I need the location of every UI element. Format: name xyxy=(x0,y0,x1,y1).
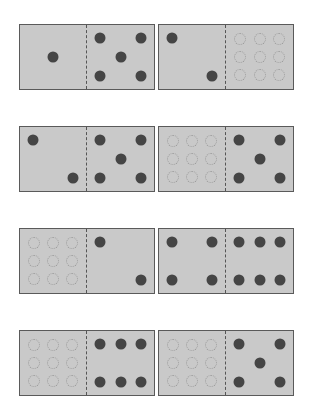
pip-dot xyxy=(135,71,146,82)
empty-pip-outline xyxy=(186,171,198,183)
empty-pip-outline xyxy=(186,153,198,165)
domino-half-left-four xyxy=(159,229,226,293)
empty-pip-outline xyxy=(167,135,179,147)
domino-tile xyxy=(19,126,155,192)
empty-pip-outline xyxy=(273,69,285,81)
pip-dot xyxy=(28,134,39,145)
empty-pip-outline xyxy=(66,273,78,285)
pip-dot xyxy=(234,338,245,349)
domino-half-left-blank xyxy=(20,229,87,293)
empty-pip-outline xyxy=(47,237,59,249)
pip-dot xyxy=(115,52,126,63)
domino-half-left-blank xyxy=(159,127,226,191)
empty-pip-outline xyxy=(167,357,179,369)
domino-tile xyxy=(19,24,155,90)
pip-dot xyxy=(274,134,285,145)
empty-pip-outline xyxy=(186,357,198,369)
empty-pip-outline xyxy=(205,135,217,147)
pip-dot xyxy=(135,338,146,349)
pip-dot xyxy=(234,275,245,286)
domino-half-left-two xyxy=(20,127,87,191)
empty-pip-outline xyxy=(28,273,40,285)
empty-pip-outline xyxy=(273,33,285,45)
empty-pip-outline xyxy=(234,51,246,63)
empty-pip-outline xyxy=(205,171,217,183)
empty-pip-outline xyxy=(28,375,40,387)
empty-pip-outline xyxy=(186,375,198,387)
empty-pip-outline xyxy=(234,69,246,81)
pip-dot xyxy=(135,275,146,286)
domino-tile xyxy=(158,24,294,90)
pip-dot xyxy=(115,377,126,388)
pip-dot xyxy=(254,236,265,247)
domino-tile xyxy=(19,228,155,294)
empty-pip-outline xyxy=(167,153,179,165)
pip-dot xyxy=(135,32,146,43)
pip-dot xyxy=(274,275,285,286)
domino-half-right-six xyxy=(87,331,154,395)
empty-pip-outline xyxy=(66,255,78,267)
pip-dot xyxy=(206,275,217,286)
pip-dot xyxy=(167,236,178,247)
pip-dot xyxy=(135,173,146,184)
empty-pip-outline xyxy=(254,51,266,63)
empty-pip-outline xyxy=(66,237,78,249)
pip-dot xyxy=(274,338,285,349)
domino-tile xyxy=(158,330,294,396)
pip-dot xyxy=(115,338,126,349)
pip-dot xyxy=(115,154,126,165)
pip-dot xyxy=(167,275,178,286)
pip-dot xyxy=(254,358,265,369)
pip-dot xyxy=(234,134,245,145)
pip-dot xyxy=(95,134,106,145)
pip-dot xyxy=(206,71,217,82)
empty-pip-outline xyxy=(47,375,59,387)
domino-half-right-five xyxy=(87,127,154,191)
empty-pip-outline xyxy=(205,357,217,369)
empty-pip-outline xyxy=(28,255,40,267)
domino-tile xyxy=(158,228,294,294)
empty-pip-outline xyxy=(186,339,198,351)
pip-dot xyxy=(234,173,245,184)
pip-dot xyxy=(274,236,285,247)
empty-pip-outline xyxy=(167,171,179,183)
domino-tile xyxy=(158,126,294,192)
empty-pip-outline xyxy=(234,33,246,45)
pip-dot xyxy=(254,154,265,165)
pip-dot xyxy=(234,236,245,247)
pip-dot xyxy=(95,236,106,247)
empty-pip-outline xyxy=(254,69,266,81)
empty-pip-outline xyxy=(47,357,59,369)
pip-dot xyxy=(274,377,285,388)
pip-dot xyxy=(95,173,106,184)
pip-dot xyxy=(254,275,265,286)
pip-dot xyxy=(95,338,106,349)
domino-half-left-blank xyxy=(20,331,87,395)
domino-half-right-six xyxy=(226,229,293,293)
domino-half-right-five xyxy=(226,331,293,395)
empty-pip-outline xyxy=(47,339,59,351)
empty-pip-outline xyxy=(167,339,179,351)
empty-pip-outline xyxy=(28,357,40,369)
domino-half-right-five xyxy=(226,127,293,191)
empty-pip-outline xyxy=(28,237,40,249)
pip-dot xyxy=(167,32,178,43)
pip-dot xyxy=(135,134,146,145)
pip-dot xyxy=(48,52,59,63)
pip-dot xyxy=(274,173,285,184)
domino-tile xyxy=(19,330,155,396)
empty-pip-outline xyxy=(205,339,217,351)
empty-pip-outline xyxy=(66,339,78,351)
empty-pip-outline xyxy=(66,357,78,369)
empty-pip-outline xyxy=(28,339,40,351)
empty-pip-outline xyxy=(66,375,78,387)
domino-half-right-blank xyxy=(226,25,293,89)
empty-pip-outline xyxy=(273,51,285,63)
pip-dot xyxy=(95,71,106,82)
empty-pip-outline xyxy=(254,33,266,45)
empty-pip-outline xyxy=(205,153,217,165)
empty-pip-outline xyxy=(47,273,59,285)
domino-half-left-blank xyxy=(159,331,226,395)
domino-half-left-two xyxy=(159,25,226,89)
pip-dot xyxy=(234,377,245,388)
